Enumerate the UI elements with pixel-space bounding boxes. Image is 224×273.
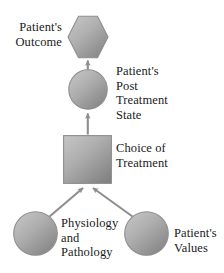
node-choice-of-treatment[interactable]: [63, 135, 112, 184]
node-patients-post-treatment-state[interactable]: [68, 69, 108, 110]
node-patients-outcome[interactable]: [67, 15, 109, 59]
label-patients-values: Patient's Values: [174, 226, 224, 255]
label-patients-outcome: Patient's Outcome: [2, 20, 62, 49]
influence-diagram: Patient's Outcome Patient's Post Treatme…: [0, 0, 224, 273]
node-physiology-and-pathology[interactable]: [13, 211, 58, 256]
label-physiology-and-pathology: Physiology and Pathology: [61, 216, 131, 260]
label-patients-post-treatment-state: Patient's Post Treatment State: [116, 64, 206, 122]
label-choice-of-treatment: Choice of Treatment: [116, 141, 211, 170]
